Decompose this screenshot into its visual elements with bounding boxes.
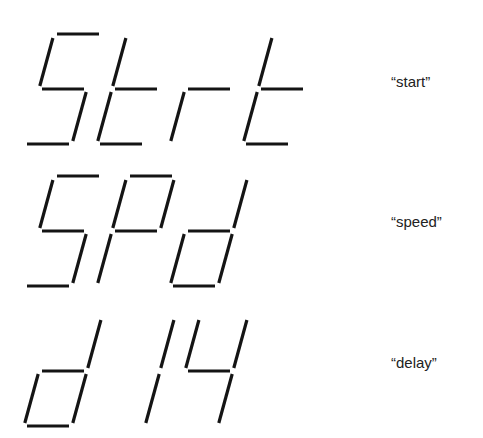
label-delay: “delay” (391, 354, 437, 371)
segment-lower-left (171, 234, 184, 283)
digit-4 (186, 320, 247, 423)
segment-upper-left (259, 38, 272, 86)
display-row-spd (27, 176, 247, 286)
segment-upper-right (234, 320, 247, 368)
segment-lower-right (219, 374, 232, 423)
segment-lower-right (146, 374, 159, 423)
segment-lower-right (73, 92, 86, 141)
segment-lower-left (98, 234, 111, 283)
segment-lower-left (25, 374, 38, 423)
segment-upper-right (234, 180, 247, 228)
display-row-strt (27, 34, 303, 144)
digit-P (98, 176, 174, 283)
segment-upper-left (186, 320, 199, 368)
segment-lower-left (171, 92, 184, 141)
segment-upper-left (40, 180, 53, 228)
digit-1 (146, 320, 174, 423)
segment-upper-left (40, 38, 53, 86)
segment-upper-left (113, 180, 126, 228)
label-start: “start” (391, 73, 430, 90)
segment-upper-right (161, 180, 174, 228)
segment-upper-right (161, 320, 174, 368)
digit-r (171, 89, 230, 141)
digit-d (171, 180, 247, 286)
display-rows (25, 34, 303, 426)
segment-lower-right (73, 234, 86, 283)
digit-S (27, 176, 99, 286)
segment-upper-right (88, 320, 101, 368)
segment-upper-left (113, 38, 126, 86)
digit-d (25, 320, 101, 426)
digit-S (27, 34, 99, 144)
segment-lower-right (73, 374, 86, 423)
segment-lower-right (219, 234, 232, 283)
segment-lower-left (244, 92, 257, 141)
digit-t (98, 38, 157, 144)
display-row-d14 (25, 320, 247, 426)
digit-t (244, 38, 303, 144)
segment-lower-left (98, 92, 111, 141)
label-speed: “speed” (391, 213, 442, 230)
